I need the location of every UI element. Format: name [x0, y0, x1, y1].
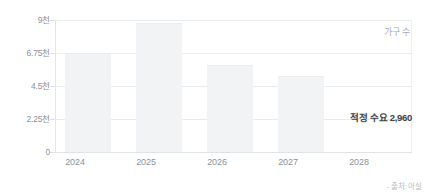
bar-2024 — [65, 53, 111, 152]
x-tick-label-2025: 2025 — [113, 158, 179, 167]
bar-2026 — [207, 65, 253, 152]
bar-2027 — [278, 76, 324, 152]
y-tick-label-2250: 2.25천 — [26, 115, 50, 124]
gridline-9000 — [55, 20, 412, 21]
y-tick-label-9000: 9천 — [38, 16, 50, 25]
y-tick-label-4500: 4.5천 — [31, 82, 50, 91]
optimal-demand-annotation: 적정 수요 2,960 — [350, 110, 412, 124]
bar-chart: 9천 6.75천 4.5천 2.25천 0 2024 2025 2026 202… — [0, 0, 434, 195]
x-tick-label-2028: 2028 — [326, 158, 392, 167]
y-tick-label-6750: 6.75천 — [26, 49, 50, 58]
bar-2025 — [136, 23, 182, 152]
gridline-baseline-0 — [55, 152, 412, 153]
plot-area — [55, 20, 412, 152]
x-tick-label-2027: 2027 — [255, 158, 321, 167]
x-tick-label-2026: 2026 — [184, 158, 250, 167]
source-note: - 출처: 아실 — [387, 180, 422, 191]
unit-label: 가구 수 — [384, 25, 410, 38]
x-tick-label-2024: 2024 — [42, 158, 108, 167]
